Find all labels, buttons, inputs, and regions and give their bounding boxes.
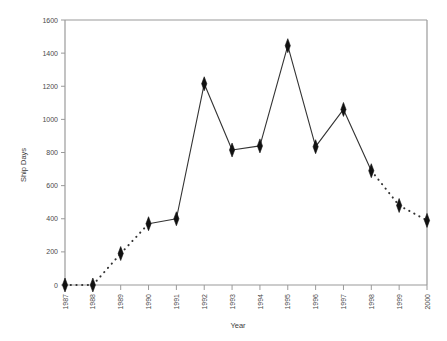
x-tick-label: 1992 bbox=[201, 294, 208, 310]
x-tick-label: 2000 bbox=[424, 294, 431, 310]
line-segment bbox=[288, 46, 316, 147]
y-axis-title: Ship Days bbox=[19, 148, 28, 182]
x-axis-title: Year bbox=[230, 321, 246, 330]
data-point-marker bbox=[424, 213, 429, 227]
line-segment bbox=[232, 146, 260, 150]
data-point-marker bbox=[146, 217, 151, 231]
y-tick-label: 600 bbox=[46, 182, 58, 189]
y-tick-label: 200 bbox=[46, 248, 58, 255]
line-segment bbox=[343, 109, 371, 170]
y-tick-label: 1600 bbox=[42, 17, 58, 24]
y-tick-label: 400 bbox=[46, 215, 58, 222]
x-axis-ticks bbox=[65, 285, 427, 290]
x-tick-label: 1994 bbox=[257, 294, 264, 310]
line-segment bbox=[371, 171, 399, 206]
y-tick-label: 0 bbox=[54, 282, 58, 289]
x-tick-label: 1997 bbox=[340, 294, 347, 310]
line-segment bbox=[93, 254, 121, 285]
x-tick-label: 1987 bbox=[62, 294, 69, 310]
x-axis-tick-labels: 1987198819891990199119921993199419951996… bbox=[62, 294, 431, 310]
line-segment bbox=[260, 46, 288, 146]
plot-frame bbox=[65, 20, 427, 285]
data-point-marker bbox=[62, 278, 67, 292]
x-tick-label: 1996 bbox=[312, 294, 319, 310]
line-segment bbox=[176, 84, 204, 219]
data-point-marker bbox=[118, 247, 123, 261]
line-segment bbox=[316, 109, 344, 146]
data-point-marker bbox=[397, 199, 402, 213]
x-tick-label: 1991 bbox=[173, 294, 180, 310]
line-segment bbox=[149, 219, 177, 224]
x-tick-label: 1993 bbox=[229, 294, 236, 310]
x-tick-label: 1998 bbox=[368, 294, 375, 310]
x-tick-label: 1989 bbox=[117, 294, 124, 310]
data-point-marker bbox=[174, 212, 179, 226]
ship-days-line-chart: 02004006008001000120014001600 1987198819… bbox=[0, 0, 447, 341]
y-tick-label: 800 bbox=[46, 149, 58, 156]
x-tick-label: 1990 bbox=[145, 294, 152, 310]
x-tick-label: 1988 bbox=[89, 294, 96, 310]
line-segment bbox=[399, 206, 427, 221]
y-tick-label: 1000 bbox=[42, 116, 58, 123]
y-tick-label: 1400 bbox=[42, 50, 58, 57]
data-line-segments bbox=[65, 46, 427, 285]
data-point-marker bbox=[90, 278, 95, 292]
chart-canvas: 02004006008001000120014001600 1987198819… bbox=[0, 0, 447, 341]
x-tick-label: 1995 bbox=[284, 294, 291, 310]
y-tick-label: 1200 bbox=[42, 83, 58, 90]
x-tick-label: 1999 bbox=[396, 294, 403, 310]
data-point-markers bbox=[62, 39, 429, 292]
line-segment bbox=[121, 224, 149, 254]
y-axis-tick-labels: 02004006008001000120014001600 bbox=[42, 17, 58, 289]
line-segment bbox=[204, 84, 232, 150]
